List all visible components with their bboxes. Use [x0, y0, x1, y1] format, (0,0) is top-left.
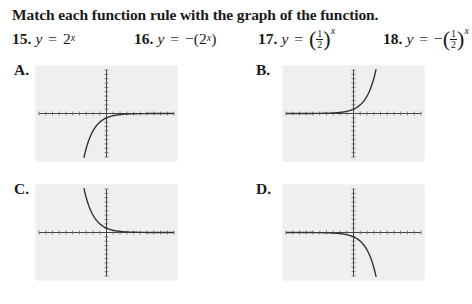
exponent: x [464, 25, 468, 36]
numerator: 1 [317, 29, 322, 39]
graph-plot [283, 66, 424, 161]
function-curve [84, 188, 174, 232]
item-number: 17. [258, 30, 277, 48]
denominator: 2 [451, 40, 456, 50]
equals: = [48, 30, 57, 48]
lhs: y [35, 30, 42, 48]
equals: = [294, 30, 303, 48]
close-paren: ) [323, 28, 330, 50]
function-curve [84, 114, 174, 158]
close-paren: ) [211, 30, 216, 48]
item-number: 15. [12, 30, 31, 48]
negative-sign: − [434, 30, 443, 48]
function-curve [286, 233, 376, 277]
graph-plot [283, 185, 424, 280]
equals: = [419, 30, 428, 48]
base: 2 [199, 30, 207, 48]
function-curve [286, 69, 376, 113]
lhs: y [406, 30, 413, 48]
numerator: 1 [451, 29, 456, 39]
graph-label-b: B. [256, 61, 270, 79]
graph-label-a: A. [14, 61, 29, 79]
instructions-heading: Match each function rule with the graph … [12, 6, 378, 24]
function-rule-16: 16. y = − (2x) [134, 27, 216, 51]
function-rule-18: 18. y = − ( 1 2 )x [383, 27, 469, 51]
open-paren: ( [443, 28, 450, 50]
item-number: 18. [383, 30, 402, 48]
function-rule-17: 17. y = ( 1 2 )x [258, 27, 335, 51]
item-number: 16. [134, 30, 153, 48]
function-rule-15: 15. y = 2x [12, 27, 75, 51]
negative-sign: − [185, 30, 194, 48]
graph-b [283, 66, 424, 161]
graph-label-d: D. [256, 180, 271, 198]
graph-plot [36, 185, 177, 280]
lhs: y [281, 30, 288, 48]
lhs: y [157, 30, 164, 48]
base: 2 [63, 30, 71, 48]
graph-d [283, 185, 424, 280]
exponent: x [331, 25, 335, 36]
denominator: 2 [317, 40, 322, 50]
exponent: x [207, 32, 211, 43]
fraction-one-half: 1 2 [450, 29, 457, 50]
graph-plot [36, 66, 177, 161]
equals: = [170, 30, 179, 48]
fraction-one-half: 1 2 [316, 29, 323, 50]
graph-a [36, 66, 177, 161]
open-paren: ( [309, 28, 316, 50]
graph-c [36, 185, 177, 280]
graph-label-c: C. [14, 180, 29, 198]
exponent: x [71, 32, 75, 43]
